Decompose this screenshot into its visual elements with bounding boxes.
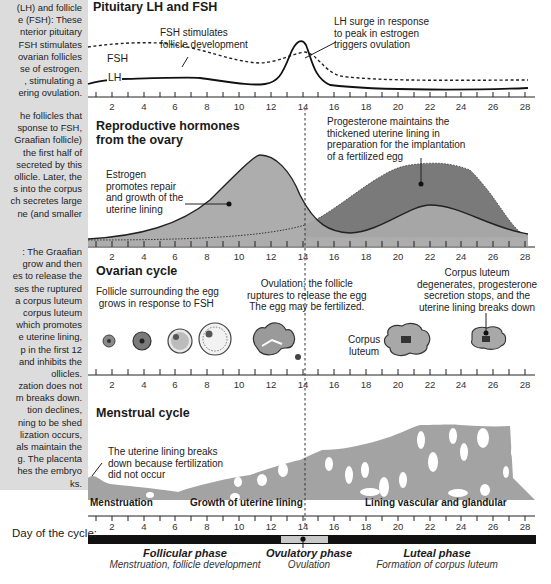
lh-label: LH [107, 72, 122, 84]
pituitary-title: Pituitary LH and FSH [93, 0, 217, 14]
breakdown-pointer [92, 463, 102, 476]
lh-pointer [305, 42, 336, 58]
ovulatory-phase-label: Ovulatory phase Ovulation [266, 547, 352, 570]
fsh-pointer [182, 57, 188, 67]
estrogen-note: Estrogen promotes repair and growth of t… [106, 169, 183, 215]
corpus-luteum-icon [384, 323, 429, 355]
luteal-phase-label: Luteal phase Formation of corpus luteum [376, 547, 498, 570]
follicle-stage-1-icon [103, 335, 115, 347]
fsh-note: FSH stimulates follicle development [160, 27, 248, 50]
follicular-phase-label: Follicular phase Menstruation, follicle … [109, 547, 260, 570]
ovary-hormones-title: Reproductive hormones from the ovary [96, 119, 240, 147]
menstruation-label: Menstruation [90, 497, 153, 508]
lh-note: LH surge in response to peak in estrogen… [334, 16, 429, 51]
ovulation-note: Ovulation; the follicle ruptures to rele… [247, 278, 367, 313]
ruptured-follicle-icon [253, 323, 301, 360]
ovarian-axis-ticks [96, 369, 525, 375]
breakdown-note: The uterine lining breaks down because f… [108, 446, 223, 481]
follicle-stage-4-icon [199, 323, 231, 355]
fsh-label: FSH [106, 53, 129, 65]
degenerating-corpus-luteum-icon [472, 327, 506, 350]
growth-lining-label: Growth of uterine lining [190, 497, 303, 508]
vascular-lining-label: Lining vascular and glandular [365, 497, 507, 508]
degenerate-note: Corpus luteum degenerates, progesterone … [417, 267, 537, 313]
follicle-stage-3-icon [168, 329, 192, 353]
corpus-luteum-label: Corpus luteum [348, 334, 380, 357]
ovarian-cycle-title: Ovarian cycle [96, 264, 177, 278]
follicle-note: Follicle surrounding the egg grows in re… [96, 286, 219, 309]
lh-curve [88, 41, 528, 89]
follicle-stage-2-icon [133, 332, 151, 350]
day-of-cycle-label: Day of the cycle: [12, 527, 97, 539]
progesterone-note: Progesterone maintains the thickened ute… [327, 116, 465, 162]
pituitary-axis-ticks [96, 92, 525, 97]
menstrual-cycle-title: Menstrual cycle [96, 406, 190, 420]
